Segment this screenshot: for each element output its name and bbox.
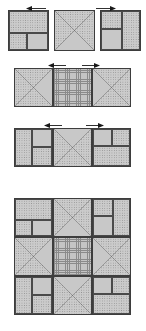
patch-right-band	[113, 199, 130, 236]
star-point-east	[92, 68, 131, 107]
patch-left-top	[101, 11, 122, 29]
patch-right-bottom	[32, 147, 52, 166]
arrow-row3-left	[44, 122, 62, 129]
corner-block-a	[14, 198, 53, 237]
corner-block-a	[8, 10, 49, 51]
patch-right-top	[32, 129, 52, 147]
patch-fill	[54, 69, 91, 106]
arrow-row2-right	[82, 62, 100, 69]
star-point-east	[92, 237, 131, 276]
star-point-west	[14, 237, 53, 276]
patch-right-top	[32, 277, 52, 295]
patch-top-right	[112, 277, 131, 294]
corner-block-b	[100, 10, 141, 51]
corner-block-c	[14, 128, 53, 167]
patch-left-band	[15, 129, 32, 166]
patch-bottom-right	[27, 33, 48, 50]
diagram-canvas	[0, 0, 146, 331]
arrow-row1-right	[96, 5, 116, 12]
arrow-row1-left	[26, 5, 46, 12]
corner-block-d	[92, 276, 131, 315]
patch-bottom-right	[32, 220, 52, 236]
patch-bottom-left	[15, 220, 32, 236]
patch-left-band	[15, 277, 32, 314]
star-point-north	[54, 10, 95, 51]
patch-right-band	[122, 11, 140, 50]
patch-right-bottom	[32, 295, 52, 314]
star-point-west	[14, 68, 53, 107]
patch-fill	[54, 238, 91, 275]
star-point-south	[53, 276, 92, 315]
arrow-row3-right	[86, 122, 104, 129]
patch-bottom-left	[9, 33, 27, 50]
patch-left-top	[93, 199, 113, 216]
patch-top-right	[112, 129, 131, 146]
patch-bottom-band	[93, 146, 130, 166]
arrow-row2-left	[48, 62, 66, 69]
corner-block-d	[92, 128, 131, 167]
center-square	[53, 68, 92, 107]
corner-block-c	[14, 276, 53, 315]
patch-top-band	[9, 11, 48, 33]
star-point-north	[53, 198, 92, 237]
patch-bottom-band	[93, 294, 130, 314]
patch-top-left	[93, 129, 112, 146]
star-point-south	[53, 128, 92, 167]
patch-top-band	[15, 199, 52, 220]
patch-left-bottom	[93, 216, 113, 236]
patch-left-bottom	[101, 29, 122, 50]
center-square	[53, 237, 92, 276]
patch-top-left	[93, 277, 112, 294]
corner-block-b	[92, 198, 131, 237]
